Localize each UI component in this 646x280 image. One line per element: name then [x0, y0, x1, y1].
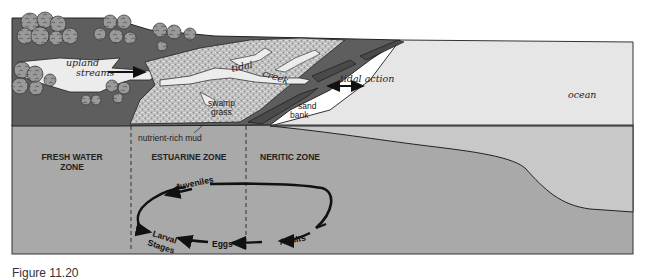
figure-caption: Figure 11.20 [12, 266, 79, 280]
zone-estuarine: ESTUARINE ZONE [151, 152, 226, 162]
zone-fresh-water: FRESH WATER [41, 152, 102, 162]
label-nutrient-mud: nutrient-rich mud [138, 133, 202, 143]
label-bank: bank [290, 110, 309, 120]
label-streams: streams [76, 67, 115, 78]
label-grass: grass [211, 107, 232, 117]
label-tidal-action: tidal action [340, 73, 394, 84]
stage-eggs: Eggs [212, 239, 233, 249]
zone-neritic: NERITIC ZONE [260, 152, 320, 162]
zone-fresh-water-2: ZONE [60, 162, 84, 172]
label-ocean: ocean [568, 89, 596, 100]
